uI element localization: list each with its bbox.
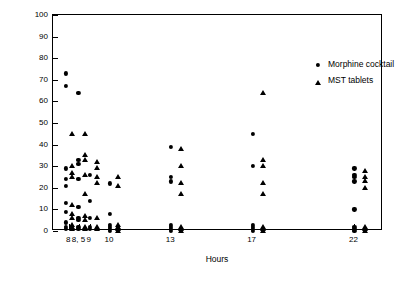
data-point-triangle xyxy=(94,165,100,170)
data-point-triangle xyxy=(115,228,121,233)
data-point-circle xyxy=(88,199,92,203)
data-point-triangle xyxy=(260,163,266,168)
data-point-triangle xyxy=(115,183,121,188)
data-point-circle xyxy=(76,218,80,222)
data-point-triangle xyxy=(82,191,88,196)
data-point-triangle xyxy=(178,228,184,233)
data-point-circle xyxy=(88,173,92,177)
y-axis-tick-label: 40 xyxy=(22,139,48,148)
data-point-triangle xyxy=(82,217,88,222)
x-axis-tick-label: 13 xyxy=(166,235,175,244)
scatter-chart: Visual analogue scale Hours Morphine coc… xyxy=(0,0,410,288)
data-point-circle xyxy=(64,184,68,188)
data-point-circle xyxy=(76,205,80,209)
plot-area: Morphine cocktail MST tablets xyxy=(52,14,382,230)
legend-label-mst: MST tablets xyxy=(328,75,373,85)
data-point-triangle xyxy=(69,215,75,220)
data-point-circle xyxy=(352,207,356,211)
y-axis-tick-label: 50 xyxy=(22,118,48,127)
data-point-circle xyxy=(64,177,68,181)
data-point-circle xyxy=(64,201,68,205)
data-point-circle xyxy=(64,166,68,170)
legend-label-morphine: Morphine cocktail xyxy=(328,59,394,69)
y-axis-tick-label: 90 xyxy=(22,31,48,40)
y-axis-tick xyxy=(53,101,58,102)
y-axis-tick-label: 30 xyxy=(22,161,48,170)
y-axis-tick-label: 10 xyxy=(22,204,48,213)
data-point-circle xyxy=(64,209,68,213)
data-point-circle xyxy=(108,229,112,233)
data-point-triangle xyxy=(260,180,266,185)
data-point-triangle xyxy=(94,180,100,185)
y-axis-tick xyxy=(53,188,58,189)
data-point-triangle xyxy=(94,226,100,231)
y-axis-tick xyxy=(53,166,58,167)
data-point-circle xyxy=(251,132,255,136)
circle-marker-icon xyxy=(316,63,320,67)
x-axis-tick-label: 10 xyxy=(105,235,114,244)
data-point-triangle xyxy=(69,131,75,136)
data-point-triangle xyxy=(362,178,368,183)
data-point-triangle xyxy=(69,202,75,207)
data-point-circle xyxy=(64,227,68,231)
data-point-triangle xyxy=(178,191,184,196)
data-point-triangle xyxy=(260,90,266,95)
data-point-triangle xyxy=(82,172,88,177)
data-point-triangle xyxy=(260,191,266,196)
data-point-circle xyxy=(169,229,173,233)
data-point-circle xyxy=(352,166,356,170)
data-point-triangle xyxy=(260,157,266,162)
data-point-circle xyxy=(64,71,68,75)
x-axis-tick-label: 9 xyxy=(86,235,90,244)
data-point-circle xyxy=(88,216,92,220)
data-point-triangle xyxy=(260,228,266,233)
y-axis-tick xyxy=(53,231,58,232)
y-axis-tick xyxy=(53,80,58,81)
x-axis-tick xyxy=(90,224,91,229)
data-point-circle xyxy=(251,229,255,233)
data-point-circle xyxy=(76,91,80,95)
x-axis-tick xyxy=(110,224,111,229)
x-axis-tick-label: 8, 5 xyxy=(72,235,85,244)
data-point-circle xyxy=(352,229,356,233)
data-point-circle xyxy=(64,84,68,88)
y-axis-tick-label: 60 xyxy=(22,96,48,105)
x-axis-tick xyxy=(69,224,70,229)
data-point-triangle xyxy=(69,163,75,168)
data-point-triangle xyxy=(362,185,368,190)
y-axis-tick-label: 70 xyxy=(22,74,48,83)
data-point-circle xyxy=(76,177,80,181)
data-point-circle xyxy=(251,164,255,168)
x-axis-title: Hours xyxy=(52,254,382,264)
y-axis-tick-label: 0 xyxy=(22,226,48,235)
x-axis-tick xyxy=(253,224,254,229)
data-point-circle xyxy=(352,179,356,183)
data-point-triangle xyxy=(178,146,184,151)
data-point-triangle xyxy=(69,174,75,179)
triangle-marker-icon xyxy=(315,80,321,85)
y-axis-tick-label: 80 xyxy=(22,53,48,62)
data-point-circle xyxy=(76,162,80,166)
y-axis-tick xyxy=(53,145,58,146)
data-point-triangle xyxy=(82,226,88,231)
data-point-triangle xyxy=(94,174,100,179)
x-axis-tick-label: 8 xyxy=(66,235,70,244)
data-point-circle xyxy=(169,179,173,183)
data-point-circle xyxy=(169,145,173,149)
data-point-triangle xyxy=(94,159,100,164)
data-point-triangle xyxy=(362,228,368,233)
y-axis-tick xyxy=(53,58,58,59)
y-axis-tick xyxy=(53,123,58,124)
data-point-circle xyxy=(108,181,112,185)
x-axis-tick xyxy=(354,224,355,229)
data-point-triangle xyxy=(178,163,184,168)
y-axis-tick xyxy=(53,37,58,38)
x-axis-tick xyxy=(79,224,80,229)
x-axis-tick-label: 17 xyxy=(247,235,256,244)
y-axis-tick-label: 20 xyxy=(22,182,48,191)
y-axis-tick-label: 100 xyxy=(22,10,48,19)
data-point-triangle xyxy=(115,174,121,179)
y-axis-tick xyxy=(53,15,58,16)
data-point-triangle xyxy=(82,157,88,162)
data-point-triangle xyxy=(362,167,368,172)
